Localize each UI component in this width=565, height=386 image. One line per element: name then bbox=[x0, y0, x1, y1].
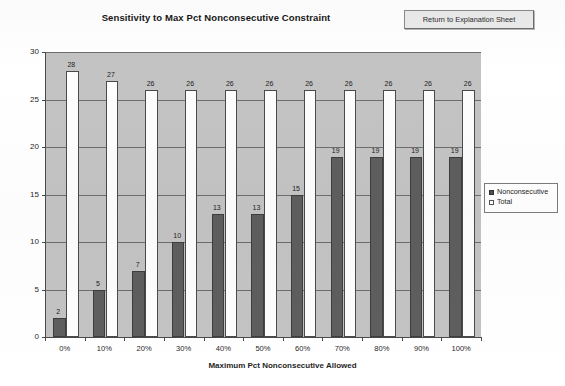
bar-nonconsecutive[interactable] bbox=[449, 157, 461, 338]
bar-total[interactable] bbox=[264, 90, 276, 337]
x-tick-mark bbox=[283, 337, 284, 341]
bar-value-label-total: 26 bbox=[377, 80, 399, 87]
bar-value-label-total: 26 bbox=[258, 80, 280, 87]
x-tick-mark bbox=[124, 337, 125, 341]
open-square-icon bbox=[489, 200, 494, 205]
bar-total[interactable] bbox=[344, 90, 356, 337]
bar-value-label-nonconsecutive: 13 bbox=[245, 204, 267, 211]
bar-nonconsecutive[interactable] bbox=[251, 214, 263, 338]
bar-nonconsecutive[interactable] bbox=[410, 157, 422, 338]
y-tick-mark bbox=[42, 195, 46, 196]
x-tick-mark bbox=[481, 337, 482, 341]
y-tick-label: 5 bbox=[9, 285, 39, 294]
x-tick-label: 70% bbox=[322, 344, 362, 353]
chart-title: Sensitivity to Max Pct Nonconsecutive Co… bbox=[0, 12, 432, 23]
bar-total[interactable] bbox=[423, 90, 435, 337]
x-tick-label: 40% bbox=[203, 344, 243, 353]
chart-legend: Nonconsecutive Total bbox=[484, 183, 558, 213]
bar-value-label-nonconsecutive: 10 bbox=[166, 232, 188, 239]
bar-value-label-nonconsecutive: 19 bbox=[443, 147, 465, 154]
bar-nonconsecutive[interactable] bbox=[291, 195, 303, 338]
x-tick-label: 80% bbox=[362, 344, 402, 353]
bar-value-label-total: 26 bbox=[417, 80, 439, 87]
bar-nonconsecutive[interactable] bbox=[53, 318, 65, 337]
x-tick-label: 50% bbox=[243, 344, 283, 353]
y-tick-label: 20 bbox=[9, 142, 39, 151]
y-tick-mark bbox=[42, 52, 46, 53]
x-tick-mark bbox=[164, 337, 165, 341]
bar-value-label-total: 28 bbox=[60, 61, 82, 68]
bar-nonconsecutive[interactable] bbox=[93, 290, 105, 338]
x-tick-mark bbox=[85, 337, 86, 341]
bar-value-label-nonconsecutive: 5 bbox=[87, 280, 109, 287]
y-tick-label: 15 bbox=[9, 190, 39, 199]
bar-value-label-total: 26 bbox=[298, 80, 320, 87]
bar-value-label-total: 26 bbox=[139, 80, 161, 87]
plot-area bbox=[45, 52, 481, 337]
bar-total[interactable] bbox=[225, 90, 237, 337]
bar-value-label-nonconsecutive: 15 bbox=[285, 185, 307, 192]
bar-total[interactable] bbox=[145, 90, 157, 337]
chart-container: Sensitivity to Max Pct Nonconsecutive Co… bbox=[0, 0, 565, 386]
x-tick-mark bbox=[362, 337, 363, 341]
bar-nonconsecutive[interactable] bbox=[132, 271, 144, 338]
x-tick-label: 90% bbox=[402, 344, 442, 353]
y-tick-mark bbox=[42, 147, 46, 148]
x-tick-mark bbox=[243, 337, 244, 341]
bar-total[interactable] bbox=[106, 81, 118, 338]
x-tick-label: 20% bbox=[124, 344, 164, 353]
y-tick-mark bbox=[42, 242, 46, 243]
y-tick-label: 10 bbox=[9, 237, 39, 246]
y-tick-label: 25 bbox=[9, 95, 39, 104]
x-tick-mark bbox=[441, 337, 442, 341]
bar-value-label-total: 27 bbox=[100, 71, 122, 78]
gridline bbox=[46, 52, 481, 53]
legend-label-nonconsecutive: Nonconsecutive bbox=[497, 187, 548, 197]
legend-item-total: Total bbox=[489, 197, 553, 207]
x-tick-label: 100% bbox=[441, 344, 481, 353]
x-tick-mark bbox=[45, 337, 46, 341]
x-axis-line bbox=[45, 337, 481, 338]
bar-nonconsecutive[interactable] bbox=[370, 157, 382, 338]
return-to-explanation-sheet-button[interactable]: Return to Explanation Sheet bbox=[404, 10, 534, 29]
bar-value-label-nonconsecutive: 19 bbox=[364, 147, 386, 154]
bar-nonconsecutive[interactable] bbox=[331, 157, 343, 338]
bar-value-label-total: 26 bbox=[456, 80, 478, 87]
bar-value-label-total: 26 bbox=[179, 80, 201, 87]
bar-value-label-nonconsecutive: 19 bbox=[404, 147, 426, 154]
bar-value-label-nonconsecutive: 19 bbox=[325, 147, 347, 154]
legend-label-total: Total bbox=[497, 197, 512, 207]
x-tick-label: 30% bbox=[164, 344, 204, 353]
y-tick-mark bbox=[42, 290, 46, 291]
bar-nonconsecutive[interactable] bbox=[212, 214, 224, 338]
bar-nonconsecutive[interactable] bbox=[172, 242, 184, 337]
bar-value-label-nonconsecutive: 13 bbox=[206, 204, 228, 211]
legend-item-nonconsecutive: Nonconsecutive bbox=[489, 187, 553, 197]
bar-value-label-nonconsecutive: 2 bbox=[47, 308, 69, 315]
x-tick-label: 0% bbox=[45, 344, 85, 353]
bar-value-label-total: 26 bbox=[219, 80, 241, 87]
filled-square-icon bbox=[489, 190, 494, 195]
bar-value-label-nonconsecutive: 7 bbox=[126, 261, 148, 268]
x-tick-mark bbox=[402, 337, 403, 341]
bar-value-label-total: 26 bbox=[338, 80, 360, 87]
x-tick-label: 10% bbox=[84, 344, 124, 353]
y-tick-label: 30 bbox=[9, 47, 39, 56]
bar-total[interactable] bbox=[383, 90, 395, 337]
bar-total[interactable] bbox=[185, 90, 197, 337]
y-tick-label: 0 bbox=[9, 332, 39, 341]
x-axis-title: Maximum Pct Nonconsecutive Allowed bbox=[0, 361, 565, 370]
x-tick-label: 60% bbox=[283, 344, 323, 353]
x-tick-mark bbox=[322, 337, 323, 341]
bar-total[interactable] bbox=[66, 71, 78, 337]
y-tick-mark bbox=[42, 100, 46, 101]
bar-total[interactable] bbox=[304, 90, 316, 337]
bar-total[interactable] bbox=[462, 90, 474, 337]
x-tick-mark bbox=[204, 337, 205, 341]
